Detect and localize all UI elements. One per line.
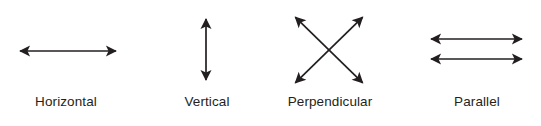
label-horizontal: Horizontal bbox=[35, 94, 97, 110]
line-relationships-figure: Horizontal Vertical Perpendicular Parall… bbox=[0, 0, 541, 126]
label-parallel: Parallel bbox=[454, 94, 500, 110]
label-vertical: Vertical bbox=[184, 94, 229, 110]
label-perpendicular: Perpendicular bbox=[288, 94, 373, 110]
labels-row: Horizontal Vertical Perpendicular Parall… bbox=[0, 0, 541, 126]
